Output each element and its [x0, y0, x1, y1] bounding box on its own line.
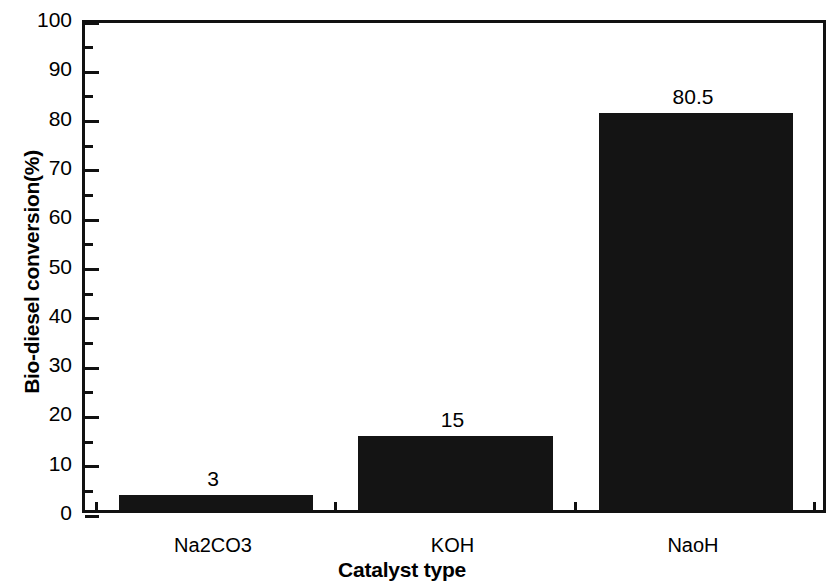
y-tick-minor [85, 391, 93, 394]
y-tick-label: 0 [10, 502, 72, 523]
y-tick-label: 10 [10, 453, 72, 474]
y-tick-major [85, 22, 99, 25]
x-axis-title: Catalyst type [82, 558, 722, 582]
y-tick-minor [85, 293, 93, 296]
y-tick-major [85, 169, 99, 172]
x-tick-minor [95, 502, 98, 510]
plot-area [82, 20, 826, 513]
y-tick-minor [85, 342, 93, 345]
y-tick-major [85, 416, 99, 419]
y-tick-major [85, 268, 99, 271]
y-tick-minor [85, 243, 93, 246]
y-tick-minor [85, 46, 93, 49]
bar-value-label: 80.5 [673, 86, 714, 107]
y-tick-major [85, 317, 99, 320]
bar-value-label: 3 [207, 468, 219, 489]
y-tick-label: 100 [10, 9, 72, 30]
bar [119, 495, 313, 510]
y-tick-major [85, 219, 99, 222]
y-tick-major [85, 367, 99, 370]
y-tick-minor [85, 95, 93, 98]
y-tick-minor [85, 194, 93, 197]
x-tick-minor [334, 502, 337, 510]
y-axis-title: Bio-diesel conversion(%) [20, 112, 44, 432]
x-tick-label: KOH [431, 535, 474, 555]
bar [358, 436, 553, 510]
y-tick-minor [85, 441, 93, 444]
y-tick-major [85, 465, 99, 468]
bar [599, 113, 793, 510]
y-tick-major [85, 71, 99, 74]
y-tick-label: 90 [10, 58, 72, 79]
x-tick-label: Na2CO3 [174, 535, 252, 555]
x-tick-minor [574, 502, 577, 510]
x-tick-label: NaoH [667, 535, 718, 555]
y-tick-major [85, 120, 99, 123]
y-tick-minor [85, 490, 93, 493]
y-tick-major [85, 515, 99, 518]
x-tick-minor [813, 502, 816, 510]
y-tick-minor [85, 145, 93, 148]
bar-value-label: 15 [441, 409, 464, 430]
